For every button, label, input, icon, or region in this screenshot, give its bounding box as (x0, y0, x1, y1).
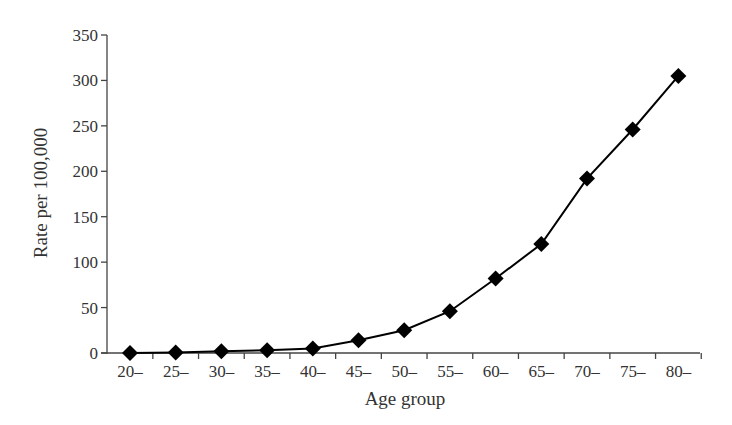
x-tick-label: 20– (117, 362, 143, 381)
y-tick-label: 300 (73, 71, 99, 90)
x-axis-title: Age group (365, 388, 446, 409)
y-tick-label: 150 (73, 208, 99, 227)
diamond-marker (213, 343, 229, 359)
x-axis: 20–25–30–35–40–45–50–55–60–65–70–75–80– (101, 353, 701, 381)
x-tick-label: 35– (254, 362, 280, 381)
diamond-marker (168, 345, 184, 361)
x-tick-label: 60– (483, 362, 509, 381)
x-tick-label: 50– (391, 362, 417, 381)
diamond-marker (533, 236, 549, 252)
x-tick-label: 75– (620, 362, 646, 381)
y-tick-label: 50 (81, 299, 98, 318)
series-line (130, 76, 678, 353)
y-tick-label: 350 (73, 26, 99, 45)
x-tick-label: 45– (346, 362, 372, 381)
x-tick-label: 30– (209, 362, 235, 381)
line-chart: 050100150200250300350 20–25–30–35–40–45–… (0, 0, 732, 425)
diamond-marker (442, 303, 458, 319)
data-series (122, 68, 686, 361)
x-tick-label: 65– (529, 362, 555, 381)
x-tick-label: 80– (666, 362, 692, 381)
diamond-marker (122, 345, 138, 361)
y-tick-label: 200 (73, 162, 99, 181)
diamond-marker (305, 340, 321, 356)
diamond-marker (259, 342, 275, 358)
x-tick-label: 40– (300, 362, 326, 381)
diamond-marker (351, 332, 367, 348)
diamond-marker (488, 270, 504, 286)
y-tick-label: 0 (90, 344, 99, 363)
y-axis-title: Rate per 100,000 (30, 128, 51, 258)
y-axis: 050100150200250300350 (73, 26, 108, 363)
x-tick-label: 55– (437, 362, 463, 381)
y-tick-label: 250 (73, 117, 99, 136)
diamond-marker (396, 322, 412, 338)
y-tick-label: 100 (73, 253, 99, 272)
x-tick-label: 70– (574, 362, 600, 381)
x-tick-label: 25– (163, 362, 189, 381)
